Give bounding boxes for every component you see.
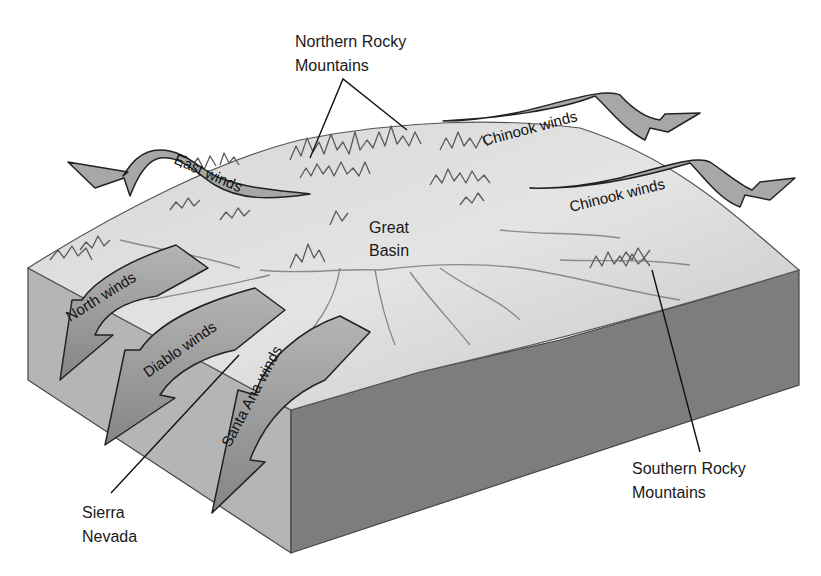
northern-rockies-label-line1: Northern Rocky [295,33,406,50]
great-basin-label-line1: Great [369,219,410,236]
southern-rockies-label-line1: Southern Rocky [632,460,746,477]
sierra-nevada-label-line2: Nevada [82,528,137,545]
sierra-nevada-label-line1: Sierra [82,504,125,521]
wind-block-diagram: East winds Chinook winds Chinook winds N… [0,0,821,576]
northern-rockies-label-line2: Mountains [295,57,369,74]
southern-rockies-label-line2: Mountains [632,484,706,501]
great-basin-label-line2: Basin [369,242,409,259]
